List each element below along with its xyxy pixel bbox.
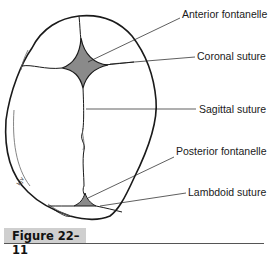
frontal-suture-line <box>79 16 81 40</box>
leader-posterior-fontanelle <box>88 157 174 198</box>
figure-caption-box: Figure 22–11 <box>4 228 86 243</box>
label-anterior-fontanelle: Anterior fontanelle <box>182 8 267 20</box>
skull-inner-line <box>14 50 70 216</box>
posterior-fontanelle-shape <box>74 193 96 206</box>
leader-coronal-suture <box>110 57 195 64</box>
label-sagittal-suture: Sagittal suture <box>199 103 266 115</box>
label-lambdoid-suture: Lambdoid suture <box>188 186 266 198</box>
label-posterior-fontanelle: Posterior fontanelle <box>176 145 266 157</box>
leader-anterior-fontanelle <box>88 18 180 62</box>
sagittal-suture-line <box>82 88 85 196</box>
leader-lambdoid-suture <box>100 193 186 206</box>
label-coronal-suture: Coronal suture <box>197 50 266 62</box>
anterior-fontanelle-shape <box>62 38 108 88</box>
caption-rule <box>4 243 264 244</box>
